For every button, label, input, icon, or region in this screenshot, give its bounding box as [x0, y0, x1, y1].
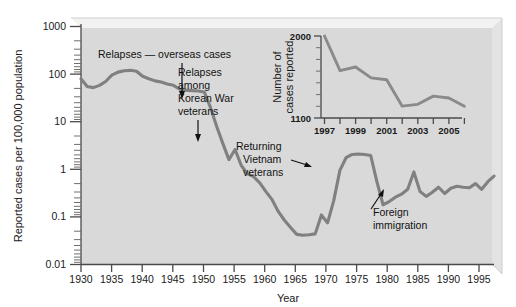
x-axis: 1930 1935 1940 1945 1950 1955 1960 1965 …	[69, 265, 494, 305]
annotation-returning-vietnam-line2: Vietnam	[243, 153, 282, 165]
inset-y-axis-title-line2: cases reported	[283, 41, 295, 114]
annotation-foreign-immigration-line2: immigration	[373, 219, 427, 231]
inset-x-tick-label-2003: 2003	[407, 125, 428, 136]
annotation-relapses-korean-line2: among	[178, 79, 210, 91]
inset-x-tick-label-2005: 2005	[438, 125, 460, 136]
y-tick-label-0.1: 0.1	[51, 210, 66, 222]
x-tick-label-1945: 1945	[161, 273, 185, 285]
inset-x-tick-label-1997: 1997	[314, 125, 335, 136]
x-axis-ticks	[81, 265, 479, 273]
annotation-relapses-korean-line4: veterans	[178, 105, 218, 117]
x-tick-label-1950: 1950	[192, 273, 216, 285]
measles-incidence-figure: 1000 100 10 1 0.1 0.01 Reported cases pe…	[0, 0, 516, 307]
y-tick-label-0.01: 0.01	[46, 258, 67, 270]
annotation-foreign-immigration-line1: Foreign	[373, 206, 409, 218]
y-axis-title: Reported cases per 100,000 population	[12, 50, 24, 243]
panel-right-bevel	[492, 18, 502, 274]
annotation-relapses-korean-line1: Relapses	[178, 66, 222, 78]
x-tick-label-1955: 1955	[222, 273, 246, 285]
inset-y-tick-label-2000: 2000	[290, 31, 311, 42]
inset-y-axis-title-line1: Number of	[271, 50, 283, 102]
annotation-returning-vietnam-line1: Returning	[236, 140, 282, 152]
x-tick-label-1985: 1985	[406, 273, 430, 285]
y-axis-major-ticks	[70, 27, 81, 265]
annotation-relapses-korean-line3: Korean War	[178, 92, 234, 104]
x-tick-label-1940: 1940	[131, 273, 155, 285]
chart-svg: 1000 100 10 1 0.1 0.01 Reported cases pe…	[0, 0, 516, 307]
y-tick-label-1000: 1000	[43, 20, 67, 32]
x-axis-title: Year	[277, 292, 300, 304]
x-tick-label-1930: 1930	[69, 273, 93, 285]
y-tick-label-10: 10	[54, 115, 66, 127]
y-axis: 1000 100 10 1 0.1 0.01 Reported cases pe…	[12, 20, 81, 270]
x-tick-label-1980: 1980	[376, 273, 400, 285]
x-tick-label-1970: 1970	[314, 273, 338, 285]
inset-x-tick-label-2001: 2001	[376, 125, 398, 136]
x-tick-label-1975: 1975	[345, 273, 369, 285]
x-tick-label-1935: 1935	[100, 273, 124, 285]
panel-top-bevel	[71, 18, 502, 28]
y-tick-label-1: 1	[60, 163, 66, 175]
y-tick-label-100: 100	[48, 68, 66, 80]
annotation-returning-vietnam-line3: veterans	[243, 166, 283, 178]
x-tick-label-1995: 1995	[467, 273, 491, 285]
x-tick-label-1990: 1990	[437, 273, 461, 285]
inset-x-tick-label-1999: 1999	[345, 125, 366, 136]
x-tick-label-1965: 1965	[284, 273, 308, 285]
annotation-relapses-overseas-text: Relapses — overseas cases	[98, 48, 231, 60]
x-tick-label-1960: 1960	[253, 273, 277, 285]
